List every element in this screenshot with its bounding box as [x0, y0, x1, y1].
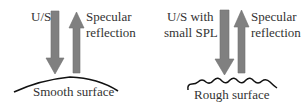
incident-arrow-down-icon — [215, 10, 234, 75]
reflection-arrow-up-icon — [234, 10, 249, 73]
smooth-panel: U/S Specular reflection Smooth surface — [14, 9, 136, 99]
reflection-arrow-up-icon — [69, 12, 84, 73]
reflection-label-line1: Specular — [251, 9, 297, 24]
reflection-label-line2: reflection — [86, 25, 136, 40]
incident-label-line2: small SPL — [164, 25, 218, 40]
rough-panel: U/S with small SPL Specular reflection R… — [164, 9, 301, 102]
reflection-label-line1: Specular — [86, 9, 132, 24]
surface-label: Rough surface — [194, 87, 270, 102]
incident-label: U/S — [31, 9, 51, 24]
surface-label: Smooth surface — [33, 84, 114, 99]
incident-label-line1: U/S with — [167, 9, 214, 24]
surface-reflection-diagram: U/S Specular reflection Smooth surface U… — [0, 0, 307, 107]
reflection-label-line2: reflection — [251, 25, 301, 40]
